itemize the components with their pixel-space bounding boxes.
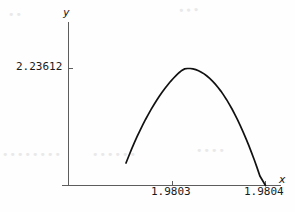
y-axis-label: y [63, 7, 70, 19]
x-axis-tick-label: 1.9804 [244, 186, 284, 198]
plot-canvas [0, 0, 295, 212]
data-curve-path [126, 69, 266, 186]
x-axis-tick-label: 1.9803 [151, 186, 191, 198]
y-axis-tick-label: 2.23612 [16, 61, 62, 73]
plot-figure: •••••••• •••••• •••• ••• •• 2.23612 1.98… [0, 0, 295, 212]
x-axis-label: x [279, 174, 286, 186]
